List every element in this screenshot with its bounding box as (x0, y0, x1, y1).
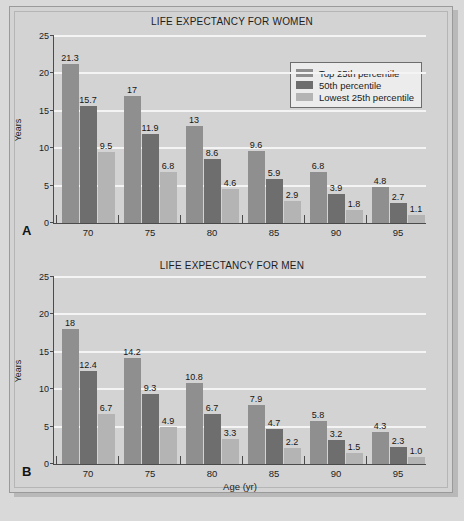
bar[interactable]: 4.6 (222, 189, 239, 223)
bar-value-label: 12.4 (79, 360, 97, 370)
bar[interactable]: 4.9 (160, 427, 177, 464)
x-tick-mark (56, 456, 57, 464)
panel-b: LIFE EXPECTANCY FOR MEN B Years Age (yr)… (10, 251, 454, 494)
bar-value-label: 4.9 (162, 416, 175, 426)
bar-value-label: 2.7 (392, 192, 405, 202)
bar[interactable]: 3.2 (328, 440, 345, 464)
y-tick-label: 15 (39, 347, 49, 357)
y-tick-mark (50, 276, 54, 277)
x-tick-mark (180, 456, 181, 464)
bar[interactable]: 7.9 (248, 405, 265, 464)
y-axis-line-a (53, 36, 54, 224)
bar-group: 138.64.6 (186, 35, 239, 223)
x-axis-title-b: Age (yr) (223, 481, 257, 492)
bar[interactable]: 3.3 (222, 439, 239, 464)
bar-value-label: 2.2 (286, 437, 299, 447)
bar[interactable]: 6.8 (160, 172, 177, 223)
y-tick-mark (50, 35, 54, 36)
bar[interactable]: 11.9 (142, 134, 159, 223)
y-tick-label: 10 (39, 143, 49, 153)
bar[interactable]: 2.2 (284, 448, 301, 464)
y-tick-mark (50, 72, 54, 73)
y-tick-mark (50, 313, 54, 314)
bar[interactable]: 1.0 (408, 457, 425, 464)
bar-value-label: 6.7 (100, 403, 113, 413)
figure-plate: LIFE EXPECTANCY FOR WOMEN A Years Top 25… (9, 6, 453, 493)
bar[interactable]: 2.3 (390, 447, 407, 464)
bar[interactable]: 14.2 (124, 358, 141, 464)
bar[interactable]: 2.9 (284, 201, 301, 223)
bar-value-label: 3.9 (330, 183, 343, 193)
bar[interactable]: 5.9 (266, 179, 283, 223)
bar[interactable]: 4.3 (372, 432, 389, 464)
bar-group: 4.32.31.0 (372, 276, 425, 464)
x-tick-mark (304, 215, 305, 223)
x-tick-label: 75 (145, 227, 156, 238)
x-tick-label: 70 (83, 227, 94, 238)
y-tick-label: 25 (39, 272, 49, 282)
y-tick-label: 15 (39, 106, 49, 116)
bar[interactable]: 18 (62, 329, 79, 464)
bar[interactable]: 9.3 (142, 394, 159, 464)
bar-value-label: 9.5 (100, 141, 113, 151)
y-tick-label: 0 (44, 218, 49, 228)
y-tick-label: 10 (39, 384, 49, 394)
bar-value-label: 5.8 (312, 410, 325, 420)
bar[interactable]: 1.5 (346, 453, 363, 464)
bar-value-label: 1.8 (348, 199, 361, 209)
bar[interactable]: 12.4 (80, 371, 97, 464)
bar-value-label: 10.8 (185, 372, 203, 382)
y-tick-label: 0 (44, 459, 49, 469)
x-tick-mark (366, 215, 367, 223)
bar-value-label: 21.3 (61, 53, 79, 63)
bar[interactable]: 17 (124, 96, 141, 223)
bar[interactable]: 10.8 (186, 383, 203, 464)
x-tick-label: 80 (207, 468, 218, 479)
bar-value-label: 1.5 (348, 442, 361, 452)
bar[interactable]: 4.8 (372, 187, 389, 223)
bar-value-label: 1.0 (410, 446, 423, 456)
bar-value-label: 17 (127, 85, 137, 95)
bar-value-label: 2.9 (286, 190, 299, 200)
bar[interactable]: 13 (186, 126, 203, 223)
bar-group: 21.315.79.5 (62, 35, 115, 223)
x-tick-label: 75 (145, 468, 156, 479)
y-tick-mark (50, 351, 54, 352)
y-tick-mark (50, 222, 54, 223)
bar[interactable]: 4.7 (266, 429, 283, 464)
x-tick-mark (242, 456, 243, 464)
x-tick-mark (304, 456, 305, 464)
bar[interactable]: 9.6 (248, 151, 265, 223)
bar-value-label: 6.8 (312, 161, 325, 171)
bar-value-label: 9.6 (250, 140, 263, 150)
bar-value-label: 11.9 (142, 123, 159, 133)
bar-value-label: 8.6 (206, 148, 219, 158)
bar[interactable]: 15.7 (80, 106, 97, 223)
bar[interactable]: 8.6 (204, 159, 221, 223)
y-tick-label: 20 (39, 68, 49, 78)
bar[interactable]: 9.5 (98, 152, 115, 223)
bar-value-label: 3.3 (224, 428, 237, 438)
y-tick-mark (50, 463, 54, 464)
bar[interactable]: 6.7 (204, 414, 221, 464)
x-tick-label: 85 (269, 468, 280, 479)
bar-value-label: 18 (65, 318, 75, 328)
bar[interactable]: 6.8 (310, 172, 327, 223)
bar[interactable]: 1.8 (346, 210, 363, 223)
x-tick-label: 90 (331, 468, 342, 479)
bar[interactable]: 5.8 (310, 421, 327, 464)
bar[interactable]: 6.7 (98, 414, 115, 464)
panel-a-letter: A (22, 223, 31, 238)
bar[interactable]: 2.7 (390, 203, 407, 223)
bar-group: 6.83.91.8 (310, 35, 363, 223)
y-tick-mark (50, 185, 54, 186)
bar[interactable]: 1.1 (408, 215, 425, 223)
bar[interactable]: 21.3 (62, 64, 79, 223)
panel-a-title: LIFE EXPECTANCY FOR WOMEN (10, 16, 454, 27)
x-tick-mark (56, 215, 57, 223)
x-tick-mark (118, 456, 119, 464)
bar[interactable]: 3.9 (328, 194, 345, 223)
y-tick-mark (50, 388, 54, 389)
bar-group: 5.83.21.5 (310, 276, 363, 464)
bar-value-label: 3.2 (330, 429, 343, 439)
